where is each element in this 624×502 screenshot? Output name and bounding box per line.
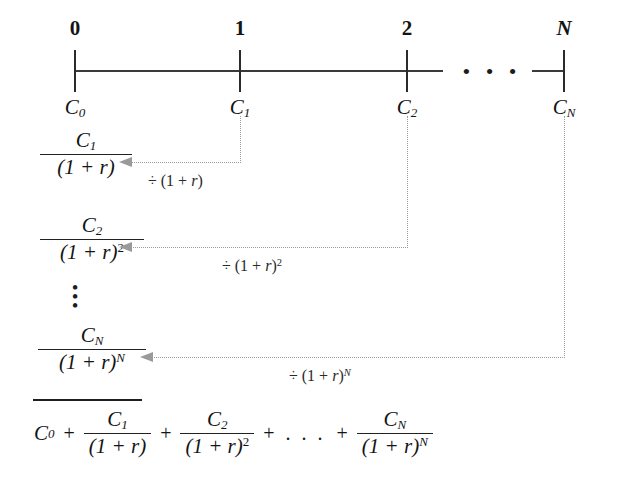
numerator-sub: N xyxy=(398,417,407,432)
timeline-axis-stub xyxy=(532,70,565,72)
cashflow-C2-sub: 2 xyxy=(411,105,418,120)
fraction-denominator: (1 + r)N xyxy=(357,433,433,459)
term-C1-fraction: C1 (1 + r) xyxy=(84,408,151,459)
period-label-0: 0 xyxy=(70,16,81,41)
operation-label-row-2: ÷ (1 + r)2 xyxy=(222,257,282,275)
numerator-base: C xyxy=(76,128,90,152)
op-base: (1 + xyxy=(161,172,191,189)
timeline-tick-2 xyxy=(406,50,408,92)
timeline-axis-main xyxy=(75,70,443,72)
cashflow-C2-base: C xyxy=(397,95,411,119)
numerator-sub: 2 xyxy=(221,417,228,432)
discounted-cash-flow-diagram: 0 1 2 N • • • C0 C1 C2 CN C1 (1 + r) ÷ xyxy=(0,0,624,502)
fraction-C2-over-1plusr-sq: C2 (1 + r)2 xyxy=(40,214,144,265)
numerator-sub: 2 xyxy=(96,223,103,238)
term-C0-base: C xyxy=(34,421,48,446)
timeline-tick-0 xyxy=(74,50,76,92)
denominator-base: (1 + r) xyxy=(57,155,114,179)
fraction-denominator: (1 + r)2 xyxy=(180,433,254,459)
operation-expression: (1 + r)N xyxy=(302,367,351,384)
numerator-sub: 1 xyxy=(121,417,128,432)
fraction-C1-over-1plusr: C1 (1 + r) xyxy=(40,129,132,180)
cashflow-C1-sub: 1 xyxy=(244,105,251,120)
cashflow-C1-base: C xyxy=(230,95,244,119)
operator-plus-2: + xyxy=(151,422,180,445)
numerator-base: C xyxy=(207,407,221,431)
numerator-base: C xyxy=(107,407,121,431)
fraction-CN-over-1plusr-N: CN (1 + r)N xyxy=(38,324,146,375)
cashflow-C0-sub: 0 xyxy=(79,105,86,120)
arrowhead-row-2 xyxy=(119,242,132,252)
fraction-numerator: C1 xyxy=(40,129,132,154)
operator-plus-3: + xyxy=(254,422,283,445)
fraction-denominator: (1 + r)N xyxy=(38,349,146,375)
timeline-tick-1 xyxy=(239,50,241,92)
op-close: ) xyxy=(197,172,202,189)
connector-horizontal-to-row-1 xyxy=(131,162,241,163)
timeline-ellipsis: • • • xyxy=(462,61,521,83)
operator-plus-1: + xyxy=(55,422,84,445)
op-base: (1 + xyxy=(235,257,265,274)
arrowhead-row-N xyxy=(140,352,153,362)
term-C0: C0 xyxy=(34,421,55,446)
term-CN-fraction: CN (1 + r)N xyxy=(357,408,433,459)
operation-label-row-1: ÷ (1 + r) xyxy=(148,172,203,190)
summation-rule-line xyxy=(33,399,142,401)
op-exp: N xyxy=(344,367,351,378)
fraction-numerator: C1 xyxy=(84,408,151,433)
cashflow-C0-base: C xyxy=(65,95,79,119)
numerator-sub: 1 xyxy=(90,138,97,153)
numerator-sub: N xyxy=(95,333,104,348)
cashflow-CN-sub: N xyxy=(567,105,576,120)
fraction-denominator: (1 + r) xyxy=(84,433,151,459)
connector-vertical-from-C2 xyxy=(407,116,408,248)
op-base: (1 + xyxy=(302,367,332,384)
term-C2-fraction: C2 (1 + r)2 xyxy=(180,408,254,459)
connector-horizontal-to-row-N xyxy=(152,357,565,358)
period-label-N: N xyxy=(556,16,571,41)
total-present-value-expression: C0 + C1 (1 + r) + C2 (1 + r)2 + . . . + … xyxy=(34,408,433,459)
denominator-base: (1 + r) xyxy=(89,435,146,459)
total-ellipsis: . . . xyxy=(284,422,328,445)
denominator-base: (1 + r) xyxy=(185,435,242,459)
connector-horizontal-to-row-2 xyxy=(131,247,408,248)
numerator-base: C xyxy=(384,407,398,431)
cashflow-label-C0: C0 xyxy=(65,95,86,121)
operator-plus-4: + xyxy=(328,422,357,445)
denominator-base: (1 + r) xyxy=(59,351,116,375)
period-label-2: 2 xyxy=(402,16,413,41)
fraction-numerator: C2 xyxy=(180,408,254,433)
numerator-base: C xyxy=(81,323,95,347)
denominator-base: (1 + r) xyxy=(362,435,419,459)
numerator-base: C xyxy=(82,213,96,237)
divide-icon: ÷ xyxy=(222,257,231,274)
denominator-exponent: N xyxy=(419,434,428,449)
denominator-exponent: N xyxy=(116,350,125,365)
vdot-3: • xyxy=(72,301,79,310)
denominator-base: (1 + r) xyxy=(60,241,117,265)
connector-vertical-from-C1 xyxy=(240,116,241,163)
arrowhead-row-1 xyxy=(119,157,132,167)
fraction: C1 (1 + r) xyxy=(84,408,151,459)
connector-vertical-from-CN xyxy=(564,116,565,358)
period-label-1: 1 xyxy=(235,16,246,41)
timeline-tick-N xyxy=(563,50,565,92)
divide-icon: ÷ xyxy=(148,172,157,189)
divide-icon: ÷ xyxy=(289,367,298,384)
denominator-exponent: 2 xyxy=(243,434,250,449)
operation-expression: (1 + r) xyxy=(161,172,203,189)
operation-expression: (1 + r)2 xyxy=(235,257,282,274)
vertical-ellipsis: • • • xyxy=(72,283,79,310)
fraction-numerator: C2 xyxy=(40,214,144,239)
fraction-numerator: CN xyxy=(38,324,146,349)
fraction: CN (1 + r)N xyxy=(357,408,433,459)
fraction-numerator: CN xyxy=(357,408,433,433)
fraction: C2 (1 + r)2 xyxy=(180,408,254,459)
operation-label-row-N: ÷ (1 + r)N xyxy=(289,367,351,385)
op-exp: 2 xyxy=(277,257,282,268)
